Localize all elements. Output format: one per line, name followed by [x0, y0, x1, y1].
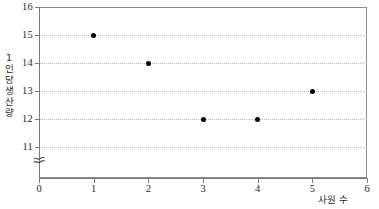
y-axis-tick: [35, 35, 40, 36]
data-point: [201, 117, 206, 122]
gridline: [40, 63, 367, 64]
y-axis-tick: [35, 63, 40, 64]
x-axis-tick-label: 2: [138, 183, 158, 194]
plot-area: [39, 7, 367, 178]
y-axis-tick: [35, 147, 40, 148]
y-axis-tick-label: 16: [22, 2, 33, 12]
y-axis-tick-label: 14: [22, 58, 33, 68]
y-axis-tick-label: 13: [22, 86, 33, 96]
y-axis-title: 1인당 생산량: [2, 52, 16, 118]
x-axis-title: 사원 수: [318, 194, 348, 205]
x-axis-tick-label: 6: [357, 183, 377, 194]
gridline: [40, 147, 367, 148]
y-axis-tick: [35, 91, 40, 92]
data-point: [310, 89, 315, 94]
gridline: [40, 35, 367, 36]
x-axis-tick-label: 1: [84, 183, 104, 194]
y-axis-tick-label: 11: [22, 142, 33, 152]
scatter-chart: 111213141516 0123456 1인당 생산량 사원 수: [0, 0, 379, 209]
y-axis-tick-label: 15: [22, 30, 33, 40]
data-point: [255, 117, 260, 122]
x-axis-tick-label: 5: [302, 183, 322, 194]
axis-break-icon: [31, 152, 48, 168]
x-axis-tick-label: 0: [29, 183, 49, 194]
gridline: [40, 91, 367, 92]
y-axis-tick: [35, 7, 40, 8]
data-point: [146, 61, 151, 66]
x-axis-tick-label: 4: [248, 183, 268, 194]
y-axis-tick: [35, 119, 40, 120]
data-point: [91, 33, 96, 38]
x-axis-tick-label: 3: [193, 183, 213, 194]
y-axis-tick-label: 12: [22, 114, 33, 124]
